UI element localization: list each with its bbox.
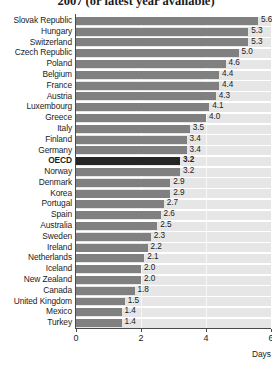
value-label: 5.0 — [242, 47, 253, 58]
tick-label-6: 6 — [261, 333, 272, 344]
value-label: 4.0 — [209, 112, 220, 123]
bar — [76, 244, 148, 252]
category-label: Poland — [0, 58, 72, 69]
category-label: Canada — [0, 285, 72, 296]
category-label: Belgium — [0, 69, 72, 80]
bar-row: New Zealand2.0 — [0, 274, 272, 285]
value-label: 4.3 — [219, 91, 230, 102]
category-label: Italy — [0, 123, 72, 134]
bar — [76, 60, 226, 68]
bar — [76, 157, 180, 165]
bar — [76, 179, 170, 187]
tick-mark-4 — [206, 329, 207, 332]
bar-row: Portugal2.7 — [0, 198, 272, 209]
bar — [76, 92, 216, 100]
bar — [76, 190, 170, 198]
value-label: 2.3 — [154, 231, 165, 242]
category-label: Ireland — [0, 242, 72, 253]
value-label: 3.5 — [193, 123, 204, 134]
category-label: United Kingdom — [0, 296, 72, 307]
bar — [76, 28, 248, 36]
chart-plot-region: Slovak Republic5.6Hungary5.3Switzerland5… — [0, 14, 272, 371]
category-label: Australia — [0, 220, 72, 231]
bar-row: Greece4.0 — [0, 112, 272, 123]
category-label: Netherlands — [0, 252, 72, 263]
x-axis-line — [75, 328, 271, 329]
value-label: 4.4 — [222, 80, 233, 91]
bar-row: Poland4.6 — [0, 58, 272, 69]
bar-row: Australia2.5 — [0, 220, 272, 231]
bar-row: Norway3.2 — [0, 166, 272, 177]
value-label: 1.8 — [138, 285, 149, 296]
value-label: 3.4 — [190, 145, 201, 156]
bar — [76, 287, 135, 295]
value-label: 2.7 — [167, 198, 178, 209]
bar — [76, 146, 187, 154]
value-label: 5.6 — [261, 15, 272, 26]
category-label: Portugal — [0, 198, 72, 209]
value-label: 1.4 — [125, 306, 136, 317]
x-axis-unit-label: Days — [252, 349, 271, 360]
bar-row: Slovak Republic5.6 — [0, 15, 272, 26]
bar-row: Italy3.5 — [0, 123, 272, 134]
bar-row: Mexico1.4 — [0, 306, 272, 317]
bar-row: France4.4 — [0, 80, 272, 91]
category-label: Turkey — [0, 317, 72, 328]
bar — [76, 276, 141, 284]
bar-row: Hungary5.3 — [0, 26, 272, 37]
category-label: Switzerland — [0, 37, 72, 48]
bar — [76, 71, 219, 79]
value-label: 2.0 — [144, 274, 155, 285]
tick-label-4: 4 — [196, 333, 216, 344]
value-label: 3.2 — [183, 166, 194, 177]
value-label: 2.0 — [144, 263, 155, 274]
value-label: 5.3 — [251, 37, 262, 48]
bar-row: Korea2.9 — [0, 188, 272, 199]
category-label: Iceland — [0, 263, 72, 274]
category-label: Finland — [0, 134, 72, 145]
category-label: Germany — [0, 145, 72, 156]
value-label: 3.4 — [190, 134, 201, 145]
bar-row: Austria4.3 — [0, 91, 272, 102]
tick-mark-2 — [141, 329, 142, 332]
bar — [76, 319, 122, 327]
bar — [76, 298, 125, 306]
category-label: New Zealand — [0, 274, 72, 285]
category-label: Slovak Republic — [0, 15, 72, 26]
category-label: OECD — [0, 155, 72, 166]
value-label: 2.2 — [151, 242, 162, 253]
category-label: Norway — [0, 166, 72, 177]
bar-row: United Kingdom1.5 — [0, 296, 272, 307]
bar — [76, 200, 164, 208]
bar-row: Denmark2.9 — [0, 177, 272, 188]
value-label: 2.6 — [164, 209, 175, 220]
value-label: 2.5 — [160, 220, 171, 231]
category-label: Sweden — [0, 231, 72, 242]
bar — [76, 136, 187, 144]
tick-mark-6 — [271, 329, 272, 332]
bar-row: Finland3.4 — [0, 134, 272, 145]
bar-row: Netherlands2.1 — [0, 252, 272, 263]
bar — [76, 103, 209, 111]
category-label: Hungary — [0, 26, 72, 37]
bar — [76, 254, 144, 262]
bar-row: OECD3.2 — [0, 155, 272, 166]
bar-row: Spain2.6 — [0, 209, 272, 220]
category-label: Denmark — [0, 177, 72, 188]
bar — [76, 82, 219, 90]
bar-row: Ireland2.2 — [0, 242, 272, 253]
category-label: Spain — [0, 209, 72, 220]
category-label: Korea — [0, 188, 72, 199]
bar — [76, 211, 161, 219]
bar — [76, 125, 190, 133]
value-label: 4.1 — [212, 101, 223, 112]
category-label: Austria — [0, 91, 72, 102]
value-label: 2.1 — [147, 252, 158, 263]
bar-row: Switzerland5.3 — [0, 37, 272, 48]
bar-row: Canada1.8 — [0, 285, 272, 296]
value-label: 5.3 — [251, 26, 262, 37]
category-label: Luxembourg — [0, 101, 72, 112]
bar — [76, 114, 206, 122]
bar — [76, 17, 258, 25]
category-label: Greece — [0, 112, 72, 123]
